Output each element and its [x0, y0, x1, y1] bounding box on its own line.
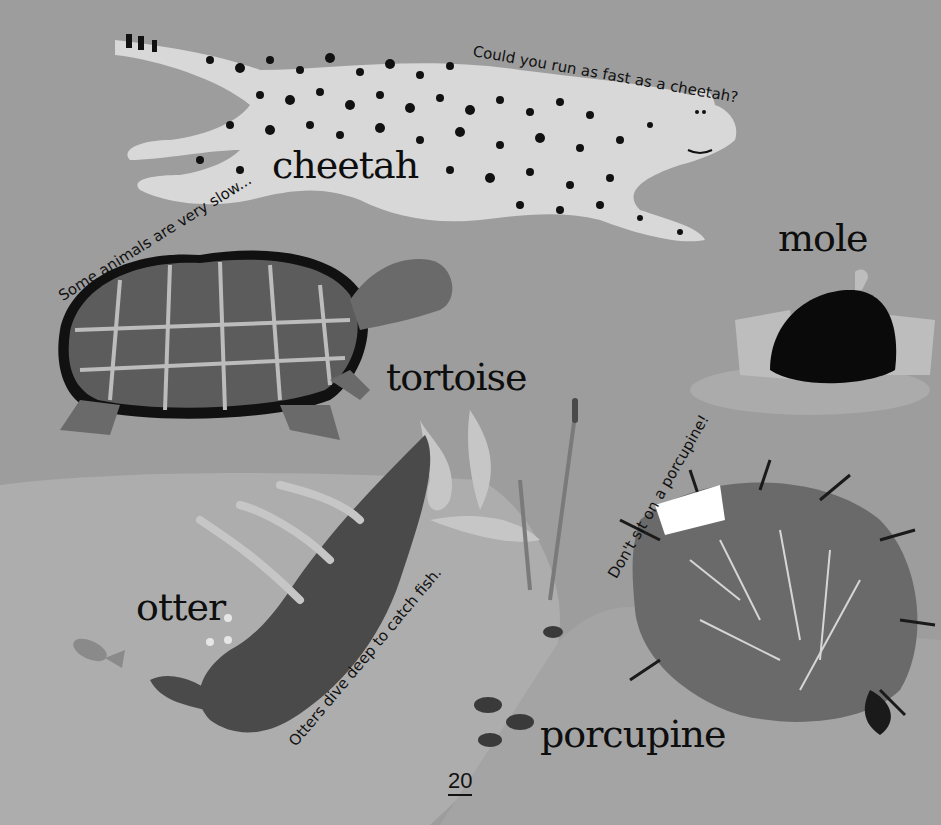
tortoise-illustration: [58, 251, 452, 440]
tortoise-label: tortoise: [386, 355, 527, 399]
illustration: [0, 0, 941, 825]
mole-label: mole: [778, 216, 868, 260]
book-page: cheetah tortoise mole otter porcupine Co…: [0, 0, 941, 825]
otter-label: otter: [136, 585, 225, 629]
cheetah-label: cheetah: [272, 143, 418, 187]
mole-illustration: [690, 270, 935, 415]
page-number: 20: [448, 770, 472, 796]
porcupine-label: porcupine: [540, 712, 726, 756]
